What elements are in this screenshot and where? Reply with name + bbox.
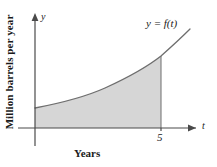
x-axis-variable-label: t: [202, 121, 205, 131]
y-axis-caption-text: Million barrels per year: [4, 15, 15, 130]
x-tick-label-5: 5: [157, 132, 163, 143]
figure-canvas: [0, 0, 217, 167]
x-axis-caption: Years: [74, 148, 100, 159]
curve-equation-label: y = f(t): [146, 18, 177, 29]
y-axis-variable-label: y: [41, 12, 45, 22]
x-axis-arrowhead: [188, 125, 196, 132]
area-under-curve-figure: Million barrels per year y t y = f(t) 5 …: [0, 0, 217, 167]
y-axis-arrowhead: [32, 13, 39, 21]
shaded-area-region: [35, 56, 161, 128]
y-axis-caption: Million barrels per year: [2, 12, 16, 132]
